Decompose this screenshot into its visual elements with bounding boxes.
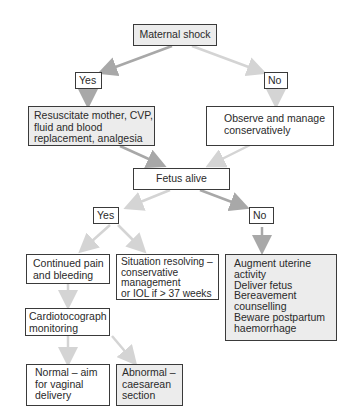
branch2-no-label: No: [249, 207, 274, 224]
continued-line-1: Continued pain: [33, 258, 109, 270]
observe-node: Observe and manage conservatively: [206, 106, 334, 146]
normal-line-1: Normal – aim: [35, 367, 109, 379]
branch1-no-label: No: [264, 72, 288, 89]
augment-uterine-node: Augment uterine activity Deliver fetus B…: [225, 254, 337, 341]
maternal-shock-node: Maternal shock: [133, 24, 217, 46]
abnormal-line-1: Abnormal –: [122, 367, 182, 379]
flow-arrows: [0, 0, 357, 414]
fetus-alive-node: Fetus alive: [133, 168, 230, 190]
resolving-line-4: or IOL if > 37 weeks: [121, 289, 218, 300]
maternal-shock-label: Maternal shock: [139, 28, 210, 40]
fetus-alive-label: Fetus alive: [156, 172, 207, 184]
ctg-monitoring-node: Cardiotocograph monitoring: [25, 308, 110, 336]
continued-line-2: and bleeding: [33, 270, 109, 282]
normal-outcome-node: Normal – aim for vaginal delivery: [26, 364, 110, 406]
resuscitate-line-3: replacement, analgesia: [34, 133, 149, 145]
augment-line-7: haemorrhage: [234, 323, 336, 334]
continued-pain-node: Continued pain and bleeding: [26, 254, 110, 284]
branch2-yes-label: Yes: [93, 207, 119, 224]
branch1-no-text: No: [268, 74, 281, 86]
augment-line-2: activity: [234, 269, 336, 280]
observe-line-1: Observe and manage: [224, 113, 333, 125]
branch1-yes-label: Yes: [75, 72, 102, 89]
branch2-no-text: No: [253, 209, 266, 221]
situation-resolving-node: Situation resolving – conservative manag…: [116, 254, 219, 300]
resuscitate-line-1: Resuscitate mother, CVP,: [34, 110, 149, 122]
observe-line-2: conservatively: [224, 125, 333, 137]
normal-line-3: delivery: [35, 390, 109, 402]
resuscitate-node: Resuscitate mother, CVP, fluid and blood…: [28, 106, 155, 146]
abnormal-outcome-node: Abnormal – caesarean section: [116, 364, 183, 406]
branch1-yes-text: Yes: [79, 74, 96, 86]
abnormal-line-3: section: [122, 390, 182, 402]
branch2-yes-text: Yes: [97, 209, 114, 221]
ctg-line-1: Cardiotocograph: [29, 311, 109, 323]
ctg-line-2: monitoring: [29, 323, 109, 335]
resolving-line-1: Situation resolving –: [121, 257, 218, 268]
